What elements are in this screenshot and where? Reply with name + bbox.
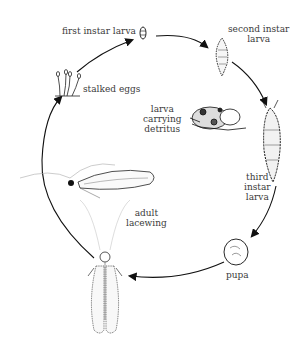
label-adult-lacewing: adult lacewing [126,208,167,228]
second-instar-larva-illustration [216,38,228,76]
lacewing-life-cycle-diagram: stalked eggs first instar larva second i… [0,0,306,354]
arrow-second-to-third-instar [232,62,266,104]
pupa-illustration [224,239,248,265]
larva-carrying-detritus-illustration [190,107,246,130]
label-first-instar-larva: first instar larva [62,26,136,36]
adult-lacewing-illustration [80,200,130,333]
stalked-eggs-illustration [55,70,81,96]
label-third-instar-larva: third instar larva [244,172,271,202]
arrow-pupa-to-adult [130,262,224,277]
label-larva-carrying-detritus: larva carrying detritus [143,104,182,134]
label-pupa: pupa [226,270,249,280]
first-instar-larva-illustration [140,27,146,39]
arrow-adult-to-eggs [42,97,94,258]
third-instar-larva-illustration [262,100,280,182]
arrow-eggs-to-first-instar [77,40,132,72]
label-second-instar-larva: second instar larva [228,24,289,44]
label-stalked-eggs: stalked eggs [83,84,140,94]
flying-lacewing-illustration [20,164,154,198]
arrow-first-to-second-instar [156,35,207,47]
